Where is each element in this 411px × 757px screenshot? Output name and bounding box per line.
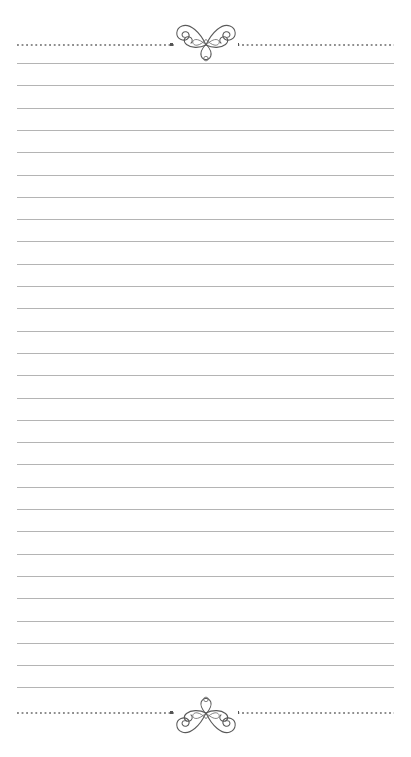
rule-line-1 xyxy=(17,63,394,64)
butterfly-flourish-icon-bottom xyxy=(166,695,246,739)
rule-line-22 xyxy=(17,531,394,532)
rule-line-17 xyxy=(17,420,394,421)
rule-line-27 xyxy=(17,643,394,644)
rule-line-26 xyxy=(17,621,394,622)
rule-line-25 xyxy=(17,598,394,599)
rule-line-8 xyxy=(17,219,394,220)
rule-line-5 xyxy=(17,152,394,153)
rule-line-12 xyxy=(17,308,394,309)
rule-line-13 xyxy=(17,331,394,332)
rule-line-9 xyxy=(17,241,394,242)
rule-line-24 xyxy=(17,576,394,577)
rule-line-29 xyxy=(17,687,394,688)
rule-line-18 xyxy=(17,442,394,443)
rule-line-11 xyxy=(17,286,394,287)
rule-line-21 xyxy=(17,509,394,510)
rule-line-3 xyxy=(17,108,394,109)
rule-line-15 xyxy=(17,375,394,376)
rule-line-6 xyxy=(17,175,394,176)
rule-line-23 xyxy=(17,554,394,555)
footer-ornament-mask xyxy=(174,711,238,716)
rule-line-28 xyxy=(17,665,394,666)
rule-line-4 xyxy=(17,130,394,131)
rule-line-20 xyxy=(17,487,394,488)
rule-line-14 xyxy=(17,353,394,354)
stationery-page xyxy=(0,0,411,757)
rule-line-16 xyxy=(17,398,394,399)
rule-line-2 xyxy=(17,85,394,86)
butterfly-flourish-icon-top xyxy=(166,19,246,63)
rule-line-10 xyxy=(17,264,394,265)
rule-line-7 xyxy=(17,197,394,198)
rule-line-19 xyxy=(17,464,394,465)
header-ornament-mask xyxy=(174,43,238,48)
